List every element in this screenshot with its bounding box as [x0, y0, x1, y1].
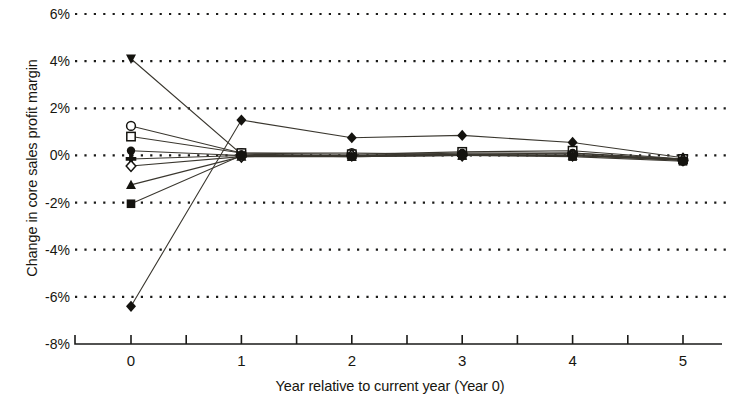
- data-point-square-filled: [127, 199, 136, 208]
- x-tick-label: 2: [337, 352, 367, 369]
- y-axis-tick-labels: 6%4%2%0%-2%-4%-6%-8%: [0, 0, 70, 406]
- series-line-series-1: [131, 59, 683, 159]
- x-tick-label: 1: [226, 352, 256, 369]
- y-tick-label: 6%: [8, 6, 70, 22]
- series-line-series-8: [131, 155, 683, 184]
- data-point-square-open: [127, 132, 135, 140]
- data-point-diamond-open: [126, 161, 136, 172]
- y-tick-label: -2%: [8, 195, 70, 211]
- x-axis-title: Year relative to current year (Year 0): [75, 378, 705, 394]
- series-line-series-2: [131, 120, 683, 306]
- x-tick-label: 0: [116, 352, 146, 369]
- x-axis-line: [75, 335, 722, 344]
- y-tick-label: -4%: [8, 242, 70, 258]
- data-point-square-filled: [237, 151, 246, 160]
- data-point-triangle-down-filled: [126, 55, 136, 64]
- data-point-square-filled: [458, 151, 467, 160]
- data-point-diamond-filled: [347, 132, 357, 143]
- x-tick-label: 3: [447, 352, 477, 369]
- data-point-diamond-filled: [236, 114, 246, 125]
- y-tick-label: 2%: [8, 100, 70, 116]
- y-tick-label: -8%: [8, 336, 70, 352]
- y-tick-label: -6%: [8, 289, 70, 305]
- series-markers-series-2: [126, 114, 688, 311]
- y-tick-label: 0%: [8, 147, 70, 163]
- data-point-diamond-filled: [457, 130, 467, 141]
- data-point-square-filled: [348, 152, 357, 161]
- plot-area: [0, 0, 731, 406]
- y-tick-label: 4%: [8, 53, 70, 69]
- data-point-square-filled: [679, 157, 688, 166]
- x-tick-label: 4: [558, 352, 588, 369]
- data-point-diamond-filled: [126, 301, 136, 312]
- series-markers-series-1: [126, 55, 688, 165]
- data-point-square-filled: [568, 152, 577, 161]
- chart-container: Change in core sales profit margin Year …: [0, 0, 731, 406]
- data-point-circle-open: [127, 122, 136, 131]
- series-line-series-9: [131, 155, 683, 203]
- data-point-circle-filled: [127, 147, 135, 155]
- x-tick-label: 5: [668, 352, 698, 369]
